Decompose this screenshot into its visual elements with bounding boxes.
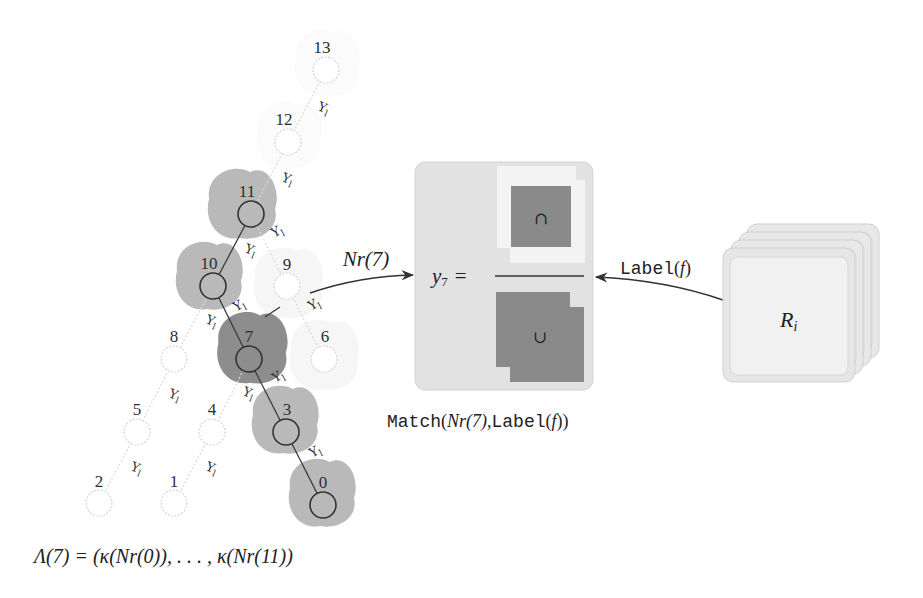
node-8-circle [161,346,187,372]
node-0-circle [310,492,336,518]
edge-label-12-11: Υl [278,169,296,189]
node-label: 10 [201,254,218,273]
edge-label-11-10: Υl [241,240,259,260]
region-stack: Ri [723,224,879,382]
sequence-caption: Λ(7) = (κ(Nr(0)), . . . , κ(Nr(11)) [32,545,293,568]
arrow-to-match-box [310,275,413,293]
match-caption: Match(Nr(7),Label(f)) [387,411,569,432]
node-label: 12 [276,110,293,129]
node-12-circle [275,129,301,155]
label-arrow: Label(f) [596,258,723,300]
intersection-region: ∩ [497,166,585,263]
intersection-icon: ∩ [534,208,548,228]
node-4-circle [199,419,225,445]
node-9-circle [274,273,300,299]
node-label: 0 [319,473,328,492]
node-11-circle [238,201,264,227]
node-7-circle [236,346,262,372]
node-label: 5 [133,400,142,419]
arrow-from-region-stack [596,277,723,300]
node-label: 3 [283,400,292,419]
node-label: 1 [170,472,179,491]
node-label: 13 [314,38,331,57]
node-label: 8 [170,327,179,346]
node-6-circle [311,346,337,372]
node-label: 6 [321,327,330,346]
node-label: 4 [208,400,217,419]
edge-label-8-5: Υl [165,385,183,405]
node-2-circle [86,490,112,516]
neighborhood-arrow: Nr(7) [310,247,413,293]
node-10-circle [200,273,226,299]
node-label: 11 [239,182,255,201]
node-label: 2 [95,472,104,491]
neighborhood-label: Nr(7) [342,247,390,271]
edge-label-10-8: Υl [202,311,220,331]
node-label: 9 [283,255,292,274]
edge-label-4-1: Υl [202,458,220,478]
node-5-circle [124,419,150,445]
tree: 13 12 11 10 9 8 7 6 5 4 3 2 1 0 Υl Υl Υl… [86,29,360,526]
figure-canvas: 13 12 11 10 9 8 7 6 5 4 3 2 1 0 Υl Υl Υl… [0,0,923,598]
region-card-front: Ri [723,248,855,382]
node-13-circle [313,57,339,83]
node-1-circle [161,490,187,516]
edge-label-5-2: Υl [127,458,145,478]
node-label: 7 [245,327,254,346]
match-box: ∩ ∪ y7= [415,162,593,390]
union-icon: ∪ [533,327,547,347]
label-function-text: Label(f) [620,258,691,279]
edge-label-7-4: Υl [239,383,257,403]
node-3-circle [273,419,299,445]
